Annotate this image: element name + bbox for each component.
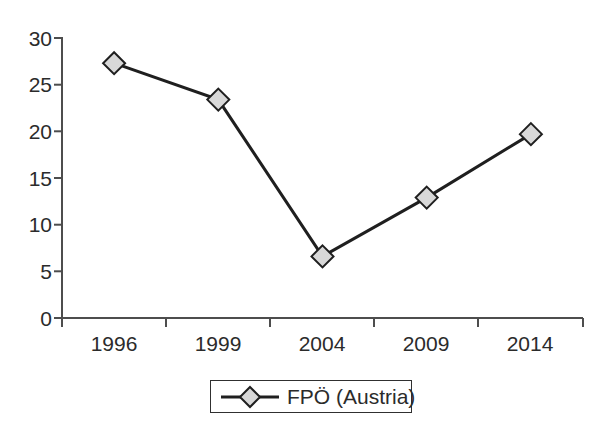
y-tick-label-0: 0: [14, 307, 52, 331]
y-tick-label-5: 5: [14, 260, 52, 284]
series-markers-fpo: [103, 52, 542, 267]
y-tick-label-10: 10: [14, 213, 52, 237]
x-tick-label-2014: 2014: [479, 332, 581, 356]
x-tick-label-1996: 1996: [63, 332, 165, 356]
y-axis-ticks: [54, 38, 62, 318]
x-tick-label-2009: 2009: [375, 332, 477, 356]
data-point-marker: [312, 245, 334, 267]
legend-entry-fpo: FPÖ (Austria): [211, 381, 411, 412]
legend-diamond-icon: [219, 384, 281, 410]
y-tick-label-15: 15: [14, 167, 52, 191]
chart-legend: FPÖ (Austria): [210, 380, 412, 413]
data-point-marker: [520, 123, 542, 145]
plot-area: [0, 0, 599, 435]
y-tick-label-20: 20: [14, 120, 52, 144]
x-axis-ticks: [62, 318, 583, 327]
legend-label-fpo: FPÖ (Austria): [287, 385, 415, 409]
series-line-fpo: [114, 63, 531, 256]
data-point-marker: [416, 187, 438, 209]
x-tick-label-2004: 2004: [271, 332, 373, 356]
y-tick-label-25: 25: [14, 73, 52, 97]
x-tick-label-1999: 1999: [167, 332, 269, 356]
y-tick-label-30: 30: [14, 27, 52, 51]
line-chart: 30 25 20 15 10 5 0 1996 1999 2004 2009 2…: [0, 0, 599, 435]
data-point-marker: [207, 89, 229, 111]
data-point-marker: [103, 52, 125, 74]
